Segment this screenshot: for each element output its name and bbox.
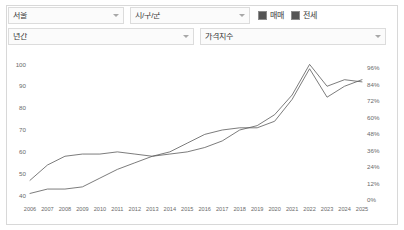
x-axis-tick: 2025	[356, 206, 368, 212]
x-axis-tick: 2017	[216, 206, 228, 212]
left-axis-tick: 40	[19, 192, 26, 199]
x-axis-tick: 2020	[268, 206, 280, 212]
metric-select[interactable]: 가격지수	[200, 28, 386, 45]
legend-item-sale[interactable]: 매매	[258, 11, 284, 20]
x-axis-tick: 2012	[129, 206, 141, 212]
x-axis-tick: 2010	[94, 206, 106, 212]
x-axis-tick: 2007	[41, 206, 53, 212]
right-axis-tick: 96%	[367, 64, 380, 71]
right-axis-tick: 0%	[367, 196, 376, 203]
x-axis-tick: 2021	[286, 206, 298, 212]
x-axis-tick-labels: 2006200720082009201020112012201320142015…	[24, 206, 368, 212]
chart-canvas: 405060708090100 0%12%24%36%48%60%72%84%9…	[8, 52, 388, 222]
series-line-전세	[30, 69, 362, 194]
right-axis-tick: 36%	[367, 147, 380, 154]
period-select-label: 년간	[13, 33, 179, 41]
checkbox-icon[interactable]	[258, 11, 267, 20]
filter-row-2: 년간 가격지수	[8, 28, 388, 45]
x-axis-tick: 2006	[24, 206, 36, 212]
region-select-label: 서울	[13, 12, 109, 20]
area-select[interactable]: 시/구/군	[130, 7, 250, 24]
x-axis-tick: 2015	[181, 206, 193, 212]
legend-label-jeonse: 전세	[303, 12, 317, 20]
right-axis-tick: 72%	[367, 97, 380, 104]
price-index-chart: 405060708090100 0%12%24%36%48%60%72%84%9…	[8, 52, 388, 222]
region-select[interactable]: 서울	[8, 7, 124, 24]
chevron-down-icon	[375, 35, 381, 38]
x-axis-tick: 2018	[233, 206, 245, 212]
left-axis-tick: 50	[19, 170, 26, 177]
checkbox-icon[interactable]	[291, 11, 300, 20]
app-root: 서울 시/구/군 매매 전세 년간	[0, 0, 404, 230]
left-axis-tick: 80	[19, 104, 26, 111]
series-line-매매	[30, 64, 362, 180]
filter-row-1: 서울 시/구/군 매매 전세	[8, 7, 388, 24]
x-axis-tick: 2022	[303, 206, 315, 212]
filter-controls: 서울 시/구/군 매매 전세 년간	[8, 7, 388, 49]
left-axis-tick-labels: 405060708090100	[16, 61, 27, 199]
x-axis-tick: 2008	[59, 206, 71, 212]
chevron-down-icon	[183, 35, 189, 38]
x-axis-tick: 2023	[321, 206, 333, 212]
x-axis-tick: 2009	[76, 206, 88, 212]
series-legend: 매매 전세	[258, 11, 317, 20]
period-select[interactable]: 년간	[8, 28, 194, 45]
metric-select-label: 가격지수	[205, 33, 371, 41]
x-axis-tick: 2019	[251, 206, 263, 212]
right-axis-tick: 48%	[367, 130, 380, 137]
chart-series-group	[30, 64, 362, 193]
x-axis-tick: 2011	[111, 206, 123, 212]
right-axis-tick: 84%	[367, 81, 380, 88]
x-axis-tick: 2016	[199, 206, 211, 212]
right-axis-tick: 12%	[367, 180, 380, 187]
x-axis-tick: 2024	[338, 206, 350, 212]
left-axis-tick: 90	[19, 82, 26, 89]
legend-item-jeonse[interactable]: 전세	[291, 11, 317, 20]
right-axis-tick: 24%	[367, 163, 380, 170]
left-axis-tick: 100	[16, 61, 27, 68]
left-axis-tick: 70	[19, 126, 26, 133]
left-axis-tick: 60	[19, 148, 26, 155]
chevron-down-icon	[113, 14, 119, 17]
area-select-label: 시/구/군	[135, 12, 235, 20]
right-axis-tick: 60%	[367, 114, 380, 121]
x-axis-tick: 2013	[146, 206, 158, 212]
chevron-down-icon	[239, 14, 245, 17]
x-axis-tick: 2014	[164, 206, 176, 212]
legend-label-sale: 매매	[270, 12, 284, 20]
right-axis-tick-labels: 0%12%24%36%48%60%72%84%96%	[367, 64, 380, 203]
